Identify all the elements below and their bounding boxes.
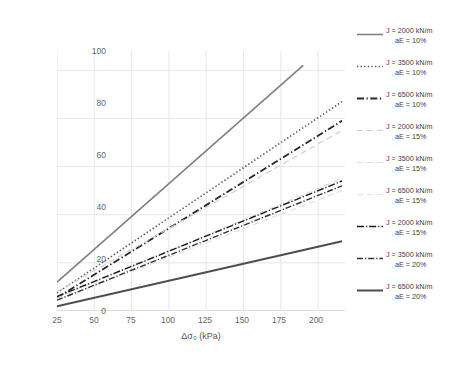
legend-swatch-icon <box>357 63 383 70</box>
x-tick-label: 100 <box>148 315 188 325</box>
x-tick-label: 50 <box>74 315 114 325</box>
legend-swatch-icon <box>357 191 383 198</box>
chart-legend: J = 2000 kN/maE = 10%J = 3500 kN/maE = 1… <box>357 26 453 314</box>
legend-label: J = 2000 kN/maE = 15% <box>386 218 433 238</box>
x-tick-label: 125 <box>185 315 225 325</box>
legend-label-line1: J = 6500 kN/m <box>386 186 433 195</box>
legend-label-line1: J = 6500 kN/m <box>386 282 433 291</box>
legend-swatch-icon <box>357 127 383 134</box>
x-axis-title: Δσ₀ (kPa) <box>57 331 345 341</box>
x-tick-label: 175 <box>259 315 299 325</box>
plot-area <box>57 51 345 311</box>
legend-label-line1: J = 3500 kN/m <box>386 250 433 259</box>
series-line-1 <box>57 102 342 293</box>
legend-swatch-icon <box>357 255 383 262</box>
legend-item[interactable]: J = 6500 kN/maE = 20% <box>357 282 453 310</box>
legend-label-line1: J = 2000 kN/m <box>386 218 433 227</box>
legend-item[interactable]: J = 2000 kN/maE = 10% <box>357 26 453 54</box>
legend-label-line1: J = 2000 kN/m <box>386 26 433 35</box>
y-tick-label: 60 <box>66 150 106 160</box>
legend-label-line1: J = 3500 kN/m <box>386 58 433 67</box>
legend-label-line2: aE = 10% <box>386 36 433 46</box>
y-tick-label: 20 <box>66 254 106 264</box>
x-tick-label: 25 <box>37 315 77 325</box>
legend-label: J = 2000 kN/maE = 15% <box>386 122 433 142</box>
y-tick-label: 80 <box>66 98 106 108</box>
legend-item[interactable]: J = 2000 kN/maE = 15% <box>357 122 453 150</box>
legend-item[interactable]: J = 3500 kN/maE = 15% <box>357 154 453 182</box>
legend-label-line1: J = 6500 kN/m <box>386 90 433 99</box>
legend-label: J = 6500 kN/maE = 15% <box>386 186 433 206</box>
legend-swatch-icon <box>357 95 383 102</box>
chart-figure: 100 80 60 40 20 0 25 50 75 100 125 150 1… <box>0 0 455 372</box>
x-tick-label: 200 <box>296 315 336 325</box>
legend-label: J = 3500 kN/maE = 15% <box>386 154 433 174</box>
legend-label: J = 2000 kN/maE = 10% <box>386 26 433 46</box>
legend-swatch-icon <box>357 159 383 166</box>
page-divider <box>0 348 455 349</box>
legend-swatch-icon <box>357 287 383 294</box>
legend-item[interactable]: J = 6500 kN/maE = 10% <box>357 90 453 118</box>
plot-canvas <box>57 51 345 311</box>
legend-label-line1: J = 3500 kN/m <box>386 154 433 163</box>
legend-item[interactable]: J = 2000 kN/maE = 15% <box>357 218 453 246</box>
legend-item[interactable]: J = 6500 kN/maE = 15% <box>357 186 453 214</box>
legend-label-line2: aE = 20% <box>386 292 433 302</box>
series-line-8 <box>57 241 342 306</box>
y-tick-label: 100 <box>66 46 106 56</box>
legend-item[interactable]: J = 3500 kN/maE = 10% <box>357 58 453 86</box>
legend-label-line1: J = 2000 kN/m <box>386 122 433 131</box>
legend-label: J = 3500 kN/maE = 10% <box>386 58 433 78</box>
legend-label-line2: aE = 15% <box>386 228 433 238</box>
legend-swatch-icon <box>357 31 383 38</box>
legend-label-line2: aE = 10% <box>386 100 433 110</box>
legend-item[interactable]: J = 3500 kN/maE = 20% <box>357 250 453 278</box>
legend-label-line2: aE = 20% <box>386 260 433 270</box>
x-tick-label: 75 <box>111 315 151 325</box>
legend-label-line2: aE = 15% <box>386 164 433 174</box>
legend-label-line2: aE = 15% <box>386 132 433 142</box>
x-tick-label: 150 <box>222 315 262 325</box>
legend-label: J = 3500 kN/maE = 20% <box>386 250 433 270</box>
legend-label: J = 6500 kN/maE = 20% <box>386 282 433 302</box>
legend-label: J = 6500 kN/maE = 10% <box>386 90 433 110</box>
y-tick-label: 40 <box>66 202 106 212</box>
legend-label-line2: aE = 15% <box>386 196 433 206</box>
legend-swatch-icon <box>357 223 383 230</box>
legend-label-line2: aE = 10% <box>386 68 433 78</box>
